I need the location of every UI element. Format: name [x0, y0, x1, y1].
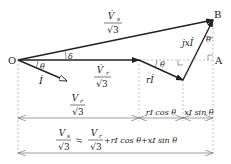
- point-label-b: B: [214, 9, 221, 20]
- point-label-o: O: [8, 55, 16, 66]
- theta-arc-origin: [36, 60, 38, 68]
- right-angle-mark-a: [208, 55, 213, 60]
- eq-vr-sub: r: [99, 132, 103, 139]
- dim-vr-num: V: [72, 93, 80, 103]
- vs-den: √3: [107, 25, 119, 35]
- total-equation: V s √3 ≒ V r √3 +rI cos θ+xI sin θ: [56, 128, 177, 152]
- eq-vr-den: √3: [90, 142, 102, 152]
- vector-jxi: [183, 20, 213, 80]
- dim-label-xisin: xI sin θ: [184, 108, 214, 117]
- eq-vs-sub: s: [67, 132, 70, 139]
- vr-sub: r: [106, 69, 110, 76]
- eq-approx: ≒: [76, 136, 83, 145]
- angle-label-theta-b: θ: [206, 35, 211, 44]
- point-label-a: A: [214, 55, 223, 66]
- eq-vr-num: V: [91, 128, 99, 138]
- label-current: İ: [38, 75, 44, 86]
- dim-vr-sub: r: [80, 97, 84, 104]
- vs-num: V̇: [108, 10, 116, 21]
- diagram-svg: O B A V̇ s √3 V̇ r √3 İ rİ jxİ δ θ θ θ V…: [0, 0, 231, 164]
- eq-vs-den: √3: [58, 142, 70, 152]
- theta-arc-ri: [155, 60, 157, 67]
- dim-vr-den: √3: [72, 107, 84, 117]
- label-ri: rİ: [146, 74, 154, 85]
- angle-label-delta: δ: [68, 52, 73, 61]
- delta-arc: [65, 50, 66, 60]
- angle-label-theta-origin: θ: [40, 62, 45, 71]
- label-vr: V̇ r √3: [94, 64, 111, 89]
- vr-den: √3: [96, 79, 108, 89]
- vs-sub: s: [117, 15, 120, 22]
- label-jxi: jxİ: [180, 37, 194, 48]
- dim-label-vr: V r √3: [70, 93, 85, 117]
- dim-label-ricos: rI cos θ: [146, 108, 176, 117]
- eq-vs-num: V: [59, 128, 67, 138]
- vr-num: V̇: [97, 64, 105, 75]
- angle-label-theta-ri: θ: [160, 60, 165, 69]
- label-vs: V̇ s √3: [104, 10, 122, 35]
- phasor-diagram: O B A V̇ s √3 V̇ r √3 İ rİ jxİ δ θ θ θ V…: [0, 0, 231, 164]
- right-angle-mark-ri: [178, 60, 183, 65]
- eq-tail: +rI cos θ+xI sin θ: [104, 136, 177, 145]
